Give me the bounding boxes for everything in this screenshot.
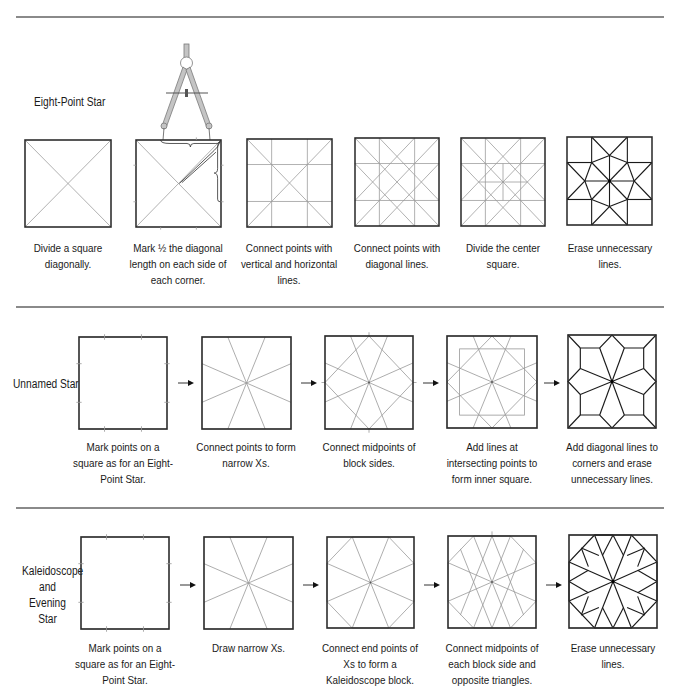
marked-square-diagram — [81, 537, 169, 629]
step-caption: Connect midpoints of block sides. — [309, 439, 429, 471]
inner-square-diagram — [447, 336, 537, 428]
narrow-xs-diagram — [204, 537, 293, 629]
kaleidoscope-diagram — [327, 537, 414, 628]
section-divider — [16, 16, 664, 18]
arrow-right-icon — [178, 379, 194, 387]
narrow-xs-diagram — [202, 337, 291, 429]
unnamed-star-diagram — [568, 335, 656, 428]
step-caption: Mark points on a square as for an Eight-… — [63, 439, 183, 487]
arrow-right-icon — [423, 379, 439, 387]
step-caption: Add diagonal lines to corners and erase … — [552, 439, 672, 487]
arrow-right-icon — [424, 581, 440, 589]
divided-center-diagram — [461, 138, 545, 226]
arrow-right-icon — [301, 379, 317, 387]
row-title-eight-point-star: Eight-Point Star — [34, 94, 105, 110]
step-caption: Divide a square diagonally. — [8, 240, 128, 272]
row-title-unnamed-star: Unnamed Star — [13, 376, 79, 392]
step-caption: Add lines at intersecting points to form… — [432, 439, 552, 487]
marked-square-diagram — [79, 337, 167, 429]
arrow-right-icon — [180, 581, 196, 589]
eight-point-star-diagram — [567, 137, 652, 225]
section-divider — [16, 507, 664, 509]
step-caption: Connect end points of Xs to form a Kalei… — [310, 640, 430, 688]
opposite-triangles-diagram — [448, 536, 536, 628]
step-caption: Mark ½ the diagonal length on each side … — [118, 240, 238, 288]
step-caption: Draw narrow Xs. — [188, 640, 308, 656]
step-caption: Mark points on a square as for an Eight-… — [65, 640, 185, 688]
compass-marking-diagram — [136, 140, 221, 227]
grid-lines-diagram — [247, 139, 332, 227]
step-caption: Divide the center square. — [443, 240, 563, 272]
step-caption: Connect points to form narrow Xs. — [186, 439, 306, 471]
compass-icon — [150, 40, 222, 144]
row-title-kaleidoscope-evening-star: Kaleidoscope and Evening Star — [22, 563, 73, 627]
step-caption: Connect points with vertical and horizon… — [229, 240, 349, 288]
arrow-right-icon — [303, 581, 319, 589]
step-caption: Connect points with diagonal lines. — [337, 240, 457, 272]
step-caption: Erase unnecessary lines. — [553, 640, 673, 672]
diagonal-grid-diagram — [355, 138, 439, 226]
evening-star-diagram — [569, 535, 657, 628]
section-divider — [16, 306, 664, 308]
midpoints-diagram — [325, 336, 413, 429]
square-diagonals-diagram — [25, 140, 111, 227]
arrow-right-icon — [544, 379, 560, 387]
step-caption: Connect midpoints of each block side and… — [432, 640, 552, 688]
arrow-right-icon — [546, 581, 562, 589]
step-caption: Erase unnecessary lines. — [550, 240, 670, 272]
